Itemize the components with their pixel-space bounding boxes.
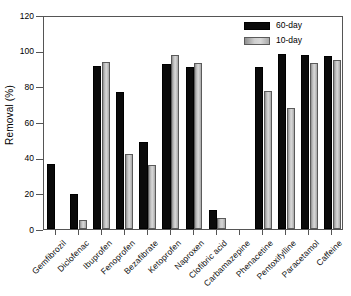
y-axis-tick — [36, 52, 43, 53]
bar-60-day-clofibric-acid — [209, 210, 217, 229]
bar-10-day-clofibric-acid — [217, 218, 225, 229]
x-axis-tick — [170, 230, 171, 235]
bar-10-day-bezafibrate — [148, 165, 156, 229]
x-axis-tick — [124, 230, 125, 235]
bar-60-day-fenoprofen — [116, 92, 124, 229]
y-axis-tick — [36, 159, 43, 160]
y-axis-tick-label: 60 — [6, 119, 34, 128]
bar-60-day-ibuprofen — [93, 66, 101, 229]
bar-60-day-pentoxifylline — [278, 54, 286, 229]
y-axis-tick — [36, 194, 43, 195]
x-axis-tick — [262, 230, 263, 235]
x-axis-tick — [331, 230, 332, 235]
y-axis-tick-label: 40 — [6, 154, 34, 163]
bar-10-day-diclofenac — [79, 220, 87, 229]
bar-10-day-caffeine — [333, 60, 341, 229]
y-axis-tick-label: 80 — [6, 83, 34, 92]
x-axis-tick — [147, 230, 148, 235]
bar-60-day-paracetamol — [301, 55, 309, 229]
bar-10-day-pentoxifylline — [287, 108, 295, 229]
legend-item-60-day: 60-day — [244, 19, 336, 32]
y-axis-tick-label: 0 — [6, 226, 34, 235]
chart-legend: 60-day 10-day — [244, 19, 336, 49]
x-axis-tick — [285, 230, 286, 235]
x-axis-tick — [193, 230, 194, 235]
legend-item-10-day: 10-day — [244, 34, 336, 47]
y-axis-tick-label: 20 — [6, 190, 34, 199]
x-axis-tick — [239, 230, 240, 235]
legend-swatch-10-day — [244, 37, 270, 45]
y-axis-tick-label: 120 — [6, 12, 34, 21]
y-axis-tick — [36, 123, 43, 124]
bar-10-day-phenacetine — [264, 91, 272, 229]
x-axis-tick — [78, 230, 79, 235]
bar-10-day-ketoprofen — [171, 55, 179, 229]
legend-label-60-day: 60-day — [276, 21, 302, 30]
bar-60-day-naproxen — [186, 67, 194, 229]
y-axis-tick — [36, 230, 43, 231]
bar-10-day-paracetamol — [310, 63, 318, 229]
x-axis-tick — [101, 230, 102, 235]
bar-60-day-caffeine — [324, 56, 332, 229]
y-axis-tick — [36, 16, 43, 17]
y-axis-tick-label: 100 — [6, 47, 34, 56]
bar-60-day-gemfibrozil — [47, 164, 55, 229]
x-axis-tick — [216, 230, 217, 235]
bar-10-day-naproxen — [194, 63, 202, 229]
x-axis-tick — [55, 230, 56, 235]
bar-10-day-ibuprofen — [102, 62, 110, 229]
bar-chart: Removal (%) 020406080100120 GemfibrozilD… — [0, 0, 351, 296]
bar-60-day-diclofenac — [70, 194, 78, 229]
y-axis-tick — [36, 87, 43, 88]
bar-60-day-phenacetine — [255, 67, 263, 229]
legend-swatch-60-day — [244, 22, 270, 30]
bar-60-day-bezafibrate — [139, 142, 147, 229]
bar-10-day-fenoprofen — [125, 154, 133, 229]
x-axis-tick — [308, 230, 309, 235]
legend-label-10-day: 10-day — [276, 36, 302, 45]
bar-60-day-ketoprofen — [162, 64, 170, 229]
